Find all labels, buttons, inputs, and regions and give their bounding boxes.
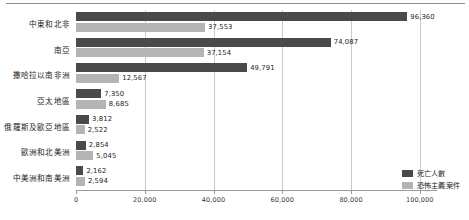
legend-item-incidents: 恐怖主義案件 (402, 180, 460, 190)
x-tick-label: 0 (74, 196, 78, 204)
bar-deaths (76, 38, 331, 47)
bar-deaths (76, 12, 407, 21)
bar-value-label: 49,791 (250, 64, 274, 72)
top-divider (6, 3, 465, 4)
bar-deaths (76, 115, 89, 124)
category-label: 中東和北非 (0, 18, 70, 29)
bar-value-label: 2,594 (88, 177, 108, 185)
bar-row: 歐洲和北美洲2,8545,045 (0, 139, 469, 165)
x-tick-label: 100,000 (406, 196, 434, 204)
bar-value-label: 12,567 (122, 74, 146, 82)
x-tick-mark (351, 190, 352, 194)
bar-incidents (76, 100, 106, 109)
bar-incidents (76, 125, 85, 134)
bar-value-label: 2,854 (89, 141, 109, 149)
bar-deaths (76, 141, 86, 150)
bar-incidents (76, 48, 204, 57)
bar-deaths (76, 63, 247, 72)
bar-value-label: 2,522 (88, 126, 108, 134)
legend-swatch-deaths-icon (402, 170, 413, 177)
category-label: 中美洲和南美洲 (0, 172, 70, 183)
bar-row: 俄羅斯及歐亞地區3,8122,522 (0, 113, 469, 139)
bar-value-label: 96,360 (410, 13, 434, 21)
x-tick-label: 80,000 (339, 196, 362, 204)
bar-value-label: 8,685 (109, 100, 129, 108)
bar-incidents (76, 151, 93, 160)
bar-row: 南亞74,08737,154 (0, 36, 469, 62)
bar-incidents (76, 23, 205, 32)
category-label: 亞太地區 (0, 95, 70, 106)
x-tick-label: 40,000 (202, 196, 225, 204)
plot-area: 中東和北非96,36037,553南亞74,08737,154撒哈拉以南非洲49… (0, 10, 469, 190)
x-tick-label: 60,000 (271, 196, 294, 204)
bar-row: 亞太地區7,3508,685 (0, 87, 469, 113)
x-axis-line (76, 190, 437, 191)
bar-value-label: 2,162 (86, 167, 106, 175)
bar-incidents (76, 177, 85, 186)
bar-value-label: 37,553 (208, 23, 232, 31)
x-tick-mark (214, 190, 215, 194)
bar-row: 中東和北非96,36037,553 (0, 10, 469, 36)
category-label: 俄羅斯及歐亞地區 (0, 121, 70, 132)
legend-swatch-incidents-icon (402, 182, 413, 189)
bar-value-label: 37,154 (207, 49, 231, 57)
legend-label-deaths: 死亡人數 (417, 168, 446, 178)
bar-deaths (76, 166, 83, 175)
category-label: 歐洲和北美洲 (0, 146, 70, 157)
legend-item-deaths: 死亡人數 (402, 168, 460, 178)
legend-label-incidents: 恐怖主義案件 (417, 180, 460, 190)
x-tick-mark (282, 190, 283, 194)
x-tick-label: 20,000 (133, 196, 156, 204)
bar-value-label: 74,087 (334, 38, 358, 46)
bar-incidents (76, 74, 119, 83)
bar-row: 撒哈拉以南非洲49,79112,567 (0, 61, 469, 87)
category-label: 撒哈拉以南非洲 (0, 69, 70, 80)
bar-value-label: 5,045 (96, 152, 116, 160)
bar-value-label: 3,812 (92, 115, 112, 123)
bar-chart: 中東和北非96,36037,553南亞74,08737,154撒哈拉以南非洲49… (0, 0, 469, 220)
x-tick-mark (145, 190, 146, 194)
bar-value-label: 7,350 (104, 90, 124, 98)
x-tick-mark (76, 190, 77, 194)
category-label: 南亞 (0, 44, 70, 55)
bar-deaths (76, 89, 101, 98)
chart-legend: 死亡人數 恐怖主義案件 (399, 166, 463, 192)
